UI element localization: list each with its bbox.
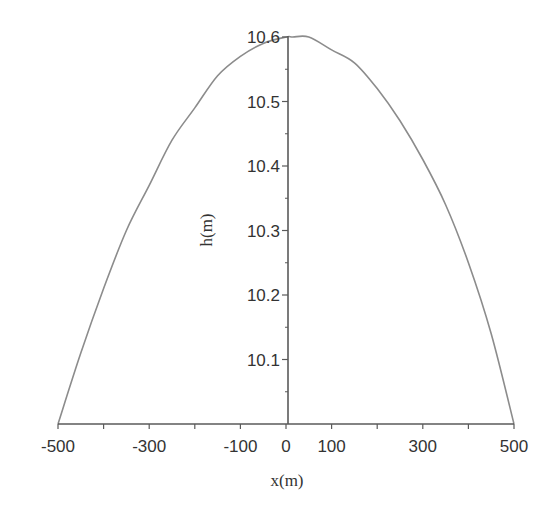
y-tick-label: 10.2 bbox=[247, 286, 280, 305]
x-tick-label: 500 bbox=[500, 437, 528, 456]
y-axis-title: h(m) bbox=[197, 213, 216, 246]
chart: -500-300-1000100300500 10.110.210.310.41… bbox=[0, 0, 550, 526]
y-tick-label: 10.4 bbox=[247, 157, 280, 176]
y-tick-label: 10.5 bbox=[247, 93, 280, 112]
y-axis bbox=[282, 36, 288, 424]
x-tick-label: -100 bbox=[223, 437, 257, 456]
y-tick-label: 10.3 bbox=[247, 222, 280, 241]
y-tick-label: 10.6 bbox=[247, 28, 280, 47]
x-tick-label: 0 bbox=[281, 437, 290, 456]
x-tick-label: -500 bbox=[41, 437, 75, 456]
y-tick-label: 10.1 bbox=[247, 351, 280, 370]
x-tick-label: 100 bbox=[317, 437, 345, 456]
x-tick-labels: -500-300-1000100300500 bbox=[41, 437, 528, 456]
x-tick-label: 300 bbox=[409, 437, 437, 456]
y-tick-labels: 10.110.210.310.410.510.6 bbox=[247, 28, 280, 370]
x-axis-title: x(m) bbox=[270, 471, 303, 490]
x-tick-label: -300 bbox=[132, 437, 166, 456]
x-axis bbox=[58, 424, 514, 429]
